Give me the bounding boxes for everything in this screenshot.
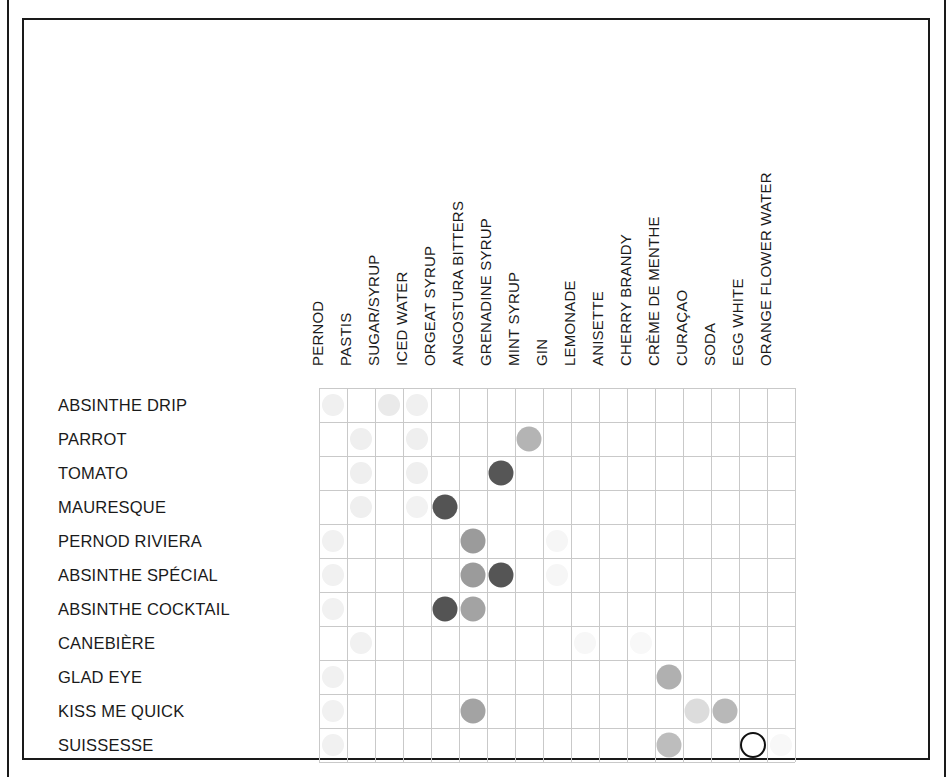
column-label-text: LEMONADE [561, 280, 579, 366]
column-label-text: SODA [701, 323, 719, 366]
data-point [517, 427, 542, 452]
gridline-horizontal [319, 422, 795, 423]
gridline-vertical [375, 388, 376, 762]
data-point [546, 564, 568, 586]
data-point [461, 563, 486, 588]
data-point [322, 394, 344, 416]
row-label-2: TOMATO [58, 463, 128, 483]
row-label-6: ABSINTHE COCKTAIL [58, 599, 230, 619]
gridline-vertical [711, 388, 712, 762]
column-label-text: MINT SYRUP [505, 272, 523, 366]
row-label-7: CANEBIÈRE [58, 633, 155, 653]
column-label-text: ORGEAT SYRUP [421, 246, 439, 366]
data-point [489, 461, 514, 486]
gridline-vertical [543, 388, 544, 762]
gridline-horizontal [319, 762, 795, 763]
ingredient-matrix-chart: PERNODPASTISSUGAR/SYRUPICED WATERORGEAT … [0, 0, 952, 777]
gridline-horizontal [319, 660, 795, 661]
data-point [740, 732, 766, 758]
data-point [630, 632, 652, 654]
data-point [322, 666, 344, 688]
data-point [322, 598, 344, 620]
row-label-5: ABSINTHE SPÉCIAL [58, 565, 218, 585]
data-point [406, 428, 428, 450]
data-point [546, 530, 568, 552]
data-point [406, 394, 428, 416]
row-label-9: KISS ME QUICK [58, 701, 184, 721]
gridline-horizontal [319, 728, 795, 729]
column-label-text: CHERRY BRANDY [617, 234, 635, 366]
data-point [406, 496, 428, 518]
gridline-vertical [347, 388, 348, 762]
data-point [461, 699, 486, 724]
gridline-vertical [571, 388, 572, 762]
data-point [378, 394, 400, 416]
data-point [350, 462, 372, 484]
data-point [322, 530, 344, 552]
row-label-4: PERNOD RIVIERA [58, 531, 202, 551]
page-root: PERNODPASTISSUGAR/SYRUPICED WATERORGEAT … [0, 0, 952, 777]
data-point [322, 700, 344, 722]
column-label-text: ANISETTE [589, 291, 607, 366]
gridline-vertical [627, 388, 628, 762]
row-label-3: MAURESQUE [58, 497, 166, 517]
column-label-text: SUGAR/SYRUP [365, 255, 383, 366]
data-point [322, 734, 344, 756]
column-label-text: GRENADINE SYRUP [477, 218, 495, 366]
gridline-vertical [515, 388, 516, 762]
gridline-vertical [767, 388, 768, 762]
data-point [350, 496, 372, 518]
gridline-horizontal [319, 626, 795, 627]
column-label-text: ORANGE FLOWER WATER [757, 172, 775, 366]
data-point [433, 495, 458, 520]
column-label-text: EGG WHITE [729, 278, 747, 366]
column-label-text: CRÈME DE MENTHE [645, 216, 663, 366]
data-point [657, 733, 682, 758]
data-point [433, 597, 458, 622]
row-label-0: ABSINTHE DRIP [58, 395, 187, 415]
column-label-text: CURAÇAO [673, 290, 691, 366]
gridline-vertical [655, 388, 656, 762]
data-point [685, 699, 710, 724]
gridline-vertical [795, 388, 796, 762]
data-point [713, 699, 738, 724]
data-point [461, 597, 486, 622]
data-point [489, 563, 514, 588]
row-label-10: SUISSESSE [58, 735, 153, 755]
column-label-text: GIN [533, 339, 551, 366]
data-point [350, 428, 372, 450]
column-label-text: PERNOD [309, 301, 327, 366]
gridline-horizontal [319, 524, 795, 525]
data-point [322, 564, 344, 586]
gridline-vertical [599, 388, 600, 762]
gridline-vertical [403, 388, 404, 762]
column-label-text: ANGOSTURA BITTERS [449, 201, 467, 366]
data-point [406, 462, 428, 484]
data-point [350, 632, 372, 654]
gridline-horizontal [319, 592, 795, 593]
gridline-vertical [431, 388, 432, 762]
gridline-horizontal [319, 490, 795, 491]
gridline-vertical [683, 388, 684, 762]
data-point [770, 734, 792, 756]
row-label-8: GLAD EYE [58, 667, 142, 687]
gridline-horizontal [319, 558, 795, 559]
column-label-text: ICED WATER [393, 272, 411, 367]
gridline-vertical [739, 388, 740, 762]
row-label-1: PARROT [58, 429, 127, 449]
gridline-horizontal [319, 456, 795, 457]
gridline-horizontal [319, 694, 795, 695]
gridline-horizontal [319, 388, 795, 389]
gridline-vertical [319, 388, 320, 762]
data-point [461, 529, 486, 554]
column-label-text: PASTIS [337, 313, 355, 366]
data-point [574, 632, 596, 654]
data-point [657, 665, 682, 690]
